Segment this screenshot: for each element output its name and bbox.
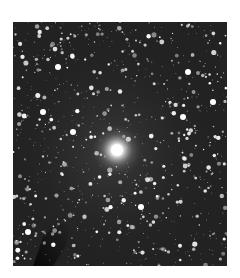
star-field-image — [13, 22, 227, 266]
star-field-canvas — [13, 22, 227, 266]
